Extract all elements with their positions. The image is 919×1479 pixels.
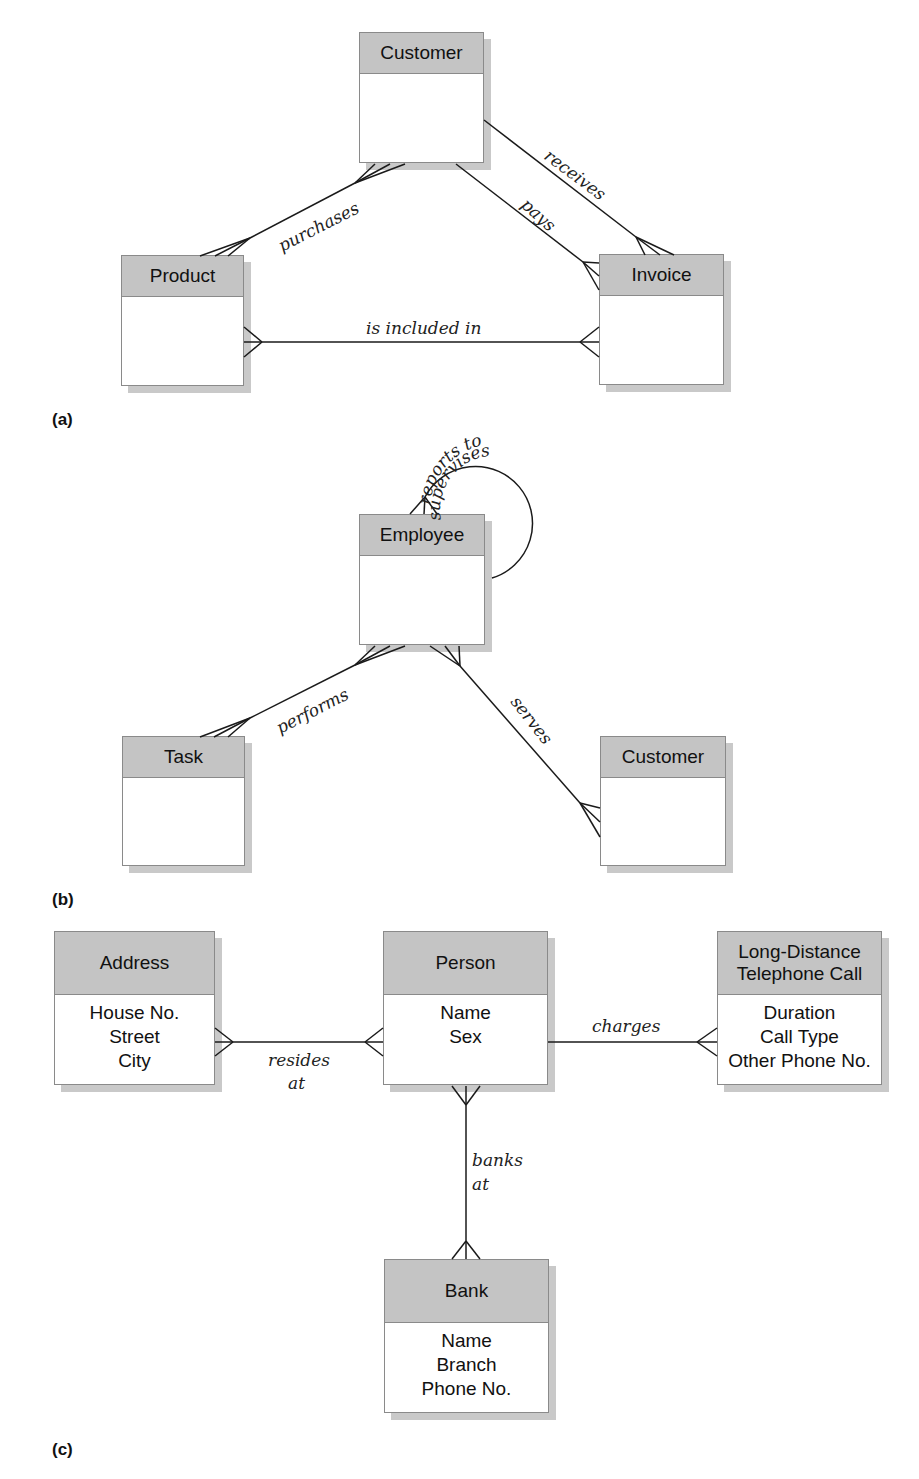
entity-box: Product	[121, 255, 244, 386]
entity-box: Person Name Sex	[383, 931, 548, 1085]
relationship-serves[interactable]: serves	[430, 646, 600, 837]
entity-attributes	[122, 297, 243, 385]
attribute: City	[118, 1049, 151, 1073]
entity-box: Employee	[359, 514, 485, 645]
entity-box: Bank Name Branch Phone No.	[384, 1259, 549, 1413]
attribute: Call Type	[760, 1025, 839, 1049]
panel-label-c: (c)	[52, 1440, 73, 1460]
relationship-banks-at[interactable]: banks at	[452, 1086, 523, 1259]
entity-attributes: Name Sex	[384, 995, 547, 1084]
attribute: Other Phone No.	[728, 1049, 871, 1073]
relationship-performs[interactable]: performs	[200, 646, 405, 738]
entity-name: Invoice	[600, 255, 723, 296]
panel-label-a: (a)	[52, 410, 73, 430]
entity-attributes	[360, 556, 484, 644]
er-diagram-canvas: Customer Product Invoice (a) Employee Ta…	[0, 0, 919, 1479]
entity-person[interactable]: Person Name Sex	[383, 931, 548, 1085]
relationship-is-included-in[interactable]: is included in	[244, 318, 599, 357]
entity-name: Employee	[360, 515, 484, 556]
entity-attributes: House No. Street City	[55, 995, 214, 1084]
entity-task[interactable]: Task	[122, 736, 245, 866]
relationship-receives[interactable]: receives	[484, 120, 674, 255]
entity-box: Task	[122, 736, 245, 866]
entity-attributes	[360, 74, 483, 162]
relationship-resides-at[interactable]: resides at	[215, 1028, 383, 1093]
entity-attributes	[123, 778, 244, 865]
entity-employee[interactable]: Employee	[359, 514, 485, 645]
attribute: Name	[440, 1001, 491, 1025]
relationship-label: purchases	[275, 198, 363, 256]
relationship-label: charges	[592, 1016, 661, 1036]
attribute: House No.	[90, 1001, 180, 1025]
entity-attributes: Name Branch Phone No.	[385, 1323, 548, 1412]
relationship-label: at	[472, 1174, 489, 1194]
entity-attributes: Duration Call Type Other Phone No.	[718, 995, 881, 1084]
entity-box: Customer	[359, 32, 484, 163]
relationship-label: performs	[273, 684, 352, 738]
relationship-label: at	[288, 1073, 305, 1093]
relationship-label: banks	[472, 1150, 523, 1170]
entity-name-line: Telephone Call	[737, 963, 863, 985]
entity-name: Bank	[385, 1260, 548, 1323]
relationship-label: pays	[517, 194, 560, 235]
relationship-label: serves	[507, 692, 557, 748]
entity-invoice[interactable]: Invoice	[599, 254, 724, 385]
relationship-label: is included in	[366, 318, 481, 338]
entity-box: Invoice	[599, 254, 724, 385]
entity-product[interactable]: Product	[121, 255, 244, 386]
attribute: Name	[441, 1329, 492, 1353]
entity-name: Person	[384, 932, 547, 995]
entity-attributes	[601, 778, 725, 865]
entity-box: Long-Distance Telephone Call Duration Ca…	[717, 931, 882, 1085]
relationship-label-outer: reports to	[414, 429, 484, 505]
entity-name: Product	[122, 256, 243, 297]
relationship-charges[interactable]: charges	[548, 1016, 717, 1056]
entity-name: Task	[123, 737, 244, 778]
entity-box: Address House No. Street City	[54, 931, 215, 1085]
entity-name: Customer	[360, 33, 483, 74]
attribute: Phone No.	[422, 1377, 512, 1401]
attribute: Street	[109, 1025, 160, 1049]
panel-label-b: (b)	[52, 890, 74, 910]
attribute: Duration	[764, 1001, 836, 1025]
entity-bank[interactable]: Bank Name Branch Phone No.	[384, 1259, 549, 1413]
entity-box: Customer	[600, 736, 726, 866]
entity-customer-a[interactable]: Customer	[359, 32, 484, 163]
attribute: Sex	[449, 1025, 482, 1049]
entity-name: Address	[55, 932, 214, 995]
entity-name-line: Long-Distance	[738, 941, 861, 963]
relationship-purchases[interactable]: purchases	[200, 164, 405, 256]
entity-name: Long-Distance Telephone Call	[718, 932, 881, 995]
attribute: Branch	[436, 1353, 496, 1377]
relationship-pays[interactable]: pays	[456, 164, 599, 290]
entity-customer-b[interactable]: Customer	[600, 736, 726, 866]
relationship-label: receives	[541, 145, 610, 204]
entity-long-distance-call[interactable]: Long-Distance Telephone Call Duration Ca…	[717, 931, 882, 1085]
entity-address[interactable]: Address House No. Street City	[54, 931, 215, 1085]
entity-attributes	[600, 296, 723, 384]
relationship-label-inner: supervises	[424, 440, 491, 522]
entity-name: Customer	[601, 737, 725, 778]
relationship-label: resides	[268, 1050, 330, 1070]
